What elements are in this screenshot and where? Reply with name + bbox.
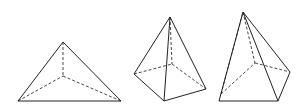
quadrilateral-pyramid-2 <box>219 12 290 101</box>
visible-edge <box>243 12 278 101</box>
visible-edge <box>278 72 290 101</box>
hidden-edge <box>18 76 63 101</box>
visible-edge <box>134 74 164 101</box>
hidden-edge <box>63 76 121 101</box>
visible-edge <box>164 89 206 101</box>
hidden-edge <box>255 63 290 72</box>
visible-edge <box>170 17 206 89</box>
visible-edge <box>18 42 63 101</box>
quadrilateral-pyramid-1 <box>134 17 206 101</box>
pyramid-diagram <box>0 0 306 110</box>
hidden-edge <box>170 17 172 64</box>
triangular-pyramid <box>18 42 121 101</box>
visible-edge <box>164 17 170 101</box>
visible-edge <box>134 17 170 74</box>
visible-edge <box>219 12 243 101</box>
hidden-edge <box>221 63 255 94</box>
hidden-edge <box>172 64 206 89</box>
visible-edge <box>63 42 121 101</box>
